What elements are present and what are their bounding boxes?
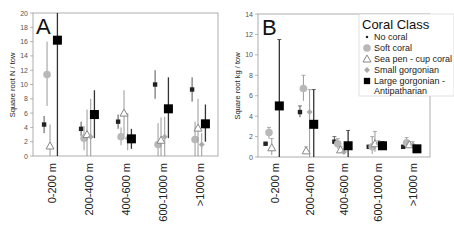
square-marker (412, 144, 421, 153)
series-a (42, 13, 210, 156)
legend-item-label: Sea pen - cup coral (374, 54, 452, 64)
small-square-marker (366, 36, 368, 38)
y-tick-label: 14 (245, 11, 253, 18)
legend-item: Small gorgonian (364, 65, 439, 75)
square-marker (364, 78, 370, 84)
panel-label-b: B (262, 15, 277, 40)
legend-item-label: No coral (374, 32, 408, 42)
square-marker (164, 104, 173, 113)
triangle-marker (302, 147, 310, 154)
series-no-coral (42, 70, 194, 136)
y-tick-label: 8 (24, 95, 28, 102)
triangle-marker (46, 142, 54, 149)
y-tick-label: 20 (20, 10, 28, 17)
y-tick-label: 10 (20, 81, 28, 88)
small-square-marker (116, 119, 120, 123)
square-marker (127, 134, 136, 143)
y-axis-a: 02468101214161820 (20, 10, 33, 160)
triangle-marker (120, 109, 128, 116)
circle-marker (300, 85, 308, 93)
y-tick-label: 2 (24, 138, 28, 145)
x-category-label: >1000 m (194, 163, 206, 206)
series-large-gorgonian-antipatharian (53, 13, 210, 156)
x-category-label: 200-400 m (83, 163, 95, 216)
triangle-marker (268, 144, 276, 151)
y-tick-label: 8 (249, 72, 253, 79)
y-tick-label: 0 (249, 154, 253, 161)
y-tick-label: 4 (24, 124, 28, 131)
small-square-marker (153, 82, 157, 86)
small-square-marker (190, 87, 194, 91)
legend-item-label: Small gorgonian (374, 65, 439, 75)
legend-item-label: Soft coral (374, 43, 412, 53)
panel-label-a: A (36, 14, 51, 39)
legend-title: Coral Class (362, 17, 430, 32)
series-small-gorgonian (307, 90, 416, 157)
panel-b: 02468101214 Square root kg / tow B 0-200… (233, 11, 454, 222)
x-category-label: 600-1000 m (157, 163, 169, 222)
series-sea-pen-cup-coral (46, 90, 202, 156)
circle-marker (265, 129, 273, 137)
y-tick-label: 18 (20, 24, 28, 31)
small-square-marker (79, 127, 83, 131)
x-category-label: 400-600 m (120, 163, 132, 216)
series-small-gorgonian (88, 99, 205, 156)
y-axis-label-a: Square root N / tow (8, 52, 17, 117)
panel-a: 02468101214161820 Square root N / tow A … (8, 10, 218, 222)
y-axis-label-b: Square root kg / tow (233, 52, 242, 120)
y-tick-label: 2 (249, 133, 253, 140)
x-category-label: 600-1000 m (372, 163, 384, 222)
legend-item: Sea pen - cup coral (363, 54, 452, 64)
diamond-marker (307, 109, 313, 115)
x-category-label: 200-400 m (304, 163, 316, 216)
y-tick-label: 16 (20, 38, 28, 45)
series-soft-coral (43, 42, 199, 156)
x-axis-a: 0-200 m200-400 m400-600 m600-1000 m>1000… (46, 163, 206, 222)
chart-figure: 02468101214161820 Square root N / tow A … (0, 0, 454, 238)
plot-area-a (33, 13, 218, 156)
y-tick-label: 4 (249, 113, 253, 120)
y-tick-label: 12 (245, 31, 253, 38)
legend: Coral Class No coralSoft coralSea pen - … (359, 14, 454, 96)
x-category-label: >1000 m (407, 163, 419, 206)
y-tick-label: 6 (24, 110, 28, 117)
square-marker (53, 36, 62, 45)
square-marker (201, 119, 210, 128)
square-marker (344, 141, 353, 150)
x-category-label: 400-600 m (338, 163, 350, 216)
y-tick-label: 12 (20, 67, 28, 74)
square-marker (378, 141, 387, 150)
x-category-label: 0-200 m (269, 163, 281, 203)
legend-item-label: Large gorgonian - (374, 76, 445, 86)
x-axis-b: 0-200 m200-400 m400-600 m600-1000 m>1000… (269, 163, 419, 222)
small-square-marker (263, 142, 267, 146)
small-square-marker (42, 122, 46, 126)
y-tick-label: 14 (20, 52, 28, 59)
diamond-marker (199, 142, 205, 148)
y-axis-b: 02468101214 (245, 11, 258, 161)
x-category-label: 0-200 m (46, 163, 58, 203)
y-tick-label: 0 (24, 153, 28, 160)
y-tick-label: 6 (249, 92, 253, 99)
y-tick-label: 10 (245, 51, 253, 58)
square-marker (275, 101, 284, 110)
legend-item-label: Antipatharian (374, 86, 427, 96)
circle-marker (43, 71, 51, 79)
small-square-marker (298, 110, 302, 114)
square-marker (309, 120, 318, 129)
circle-marker (363, 44, 371, 52)
square-marker (90, 110, 99, 119)
